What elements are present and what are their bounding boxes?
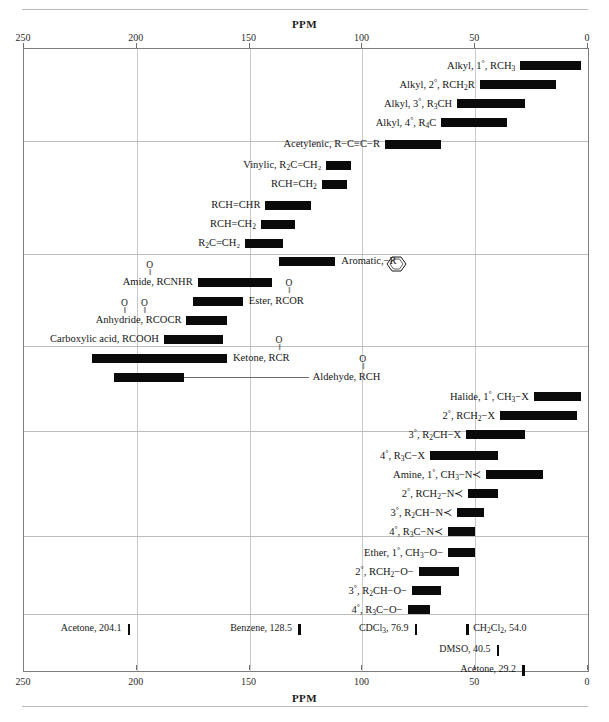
- bar-ketone: [92, 354, 227, 363]
- ppm-title-bottom: PPM: [0, 692, 609, 704]
- section-divider-2: [24, 254, 588, 255]
- section-divider-3: [24, 346, 588, 347]
- row-label-7: RCH=CHR: [211, 199, 260, 210]
- row-label-6: RCH=CH2: [271, 178, 317, 191]
- right-row-label-3: 4°, R3C−X: [380, 449, 425, 463]
- bar-right-row-3: [430, 451, 498, 460]
- bar-row-7: [265, 201, 310, 210]
- axis-tick-label-250: 250: [16, 676, 31, 687]
- bar-right-row-0: [534, 392, 581, 401]
- bar-right-row-7: [448, 527, 475, 536]
- bar-right-row-6: [457, 508, 484, 517]
- gridline-50: [475, 49, 476, 671]
- bar-right-row-10: [412, 586, 441, 595]
- bar-row-4: [385, 140, 441, 149]
- bar-aldehyde: [114, 373, 184, 382]
- right-row-label-9: 2°, RCH2−O−: [355, 565, 413, 579]
- aldehyde-leader-line: [184, 377, 309, 378]
- solvent-marker-2: [415, 624, 418, 635]
- solvent-label-4: DMSO, 40.5: [439, 643, 490, 654]
- right-row-label-5: 2°, RCH2−N≺: [402, 487, 464, 501]
- carbonyl-group-icon: O‖: [359, 356, 366, 370]
- right-row-label-4: Amine, 1°, CH3−N≺: [393, 468, 481, 482]
- bar-row-1: [480, 80, 557, 89]
- bar-row-10: [198, 278, 272, 287]
- carbonyl-group-icon: O‖: [141, 300, 148, 314]
- row-label-aldehyde: Aldehyde, RCH: [313, 371, 381, 382]
- solvent-marker-5: [522, 665, 525, 676]
- axis-tick-label-150: 150: [241, 676, 256, 687]
- solvent-marker-0: [128, 624, 131, 635]
- right-row-label-11: 4°, R3C−O−: [352, 603, 403, 617]
- bar-right-row-9: [419, 567, 460, 576]
- bottom-rule: [22, 706, 588, 707]
- row-label-0: Alkyl, 1°, RCH3: [447, 59, 515, 73]
- bar-right-row-5: [468, 489, 497, 498]
- solvent-marker-3: [466, 624, 469, 635]
- right-row-label-10: 3°, R2CH−O−: [349, 584, 407, 598]
- bar-right-row-4: [486, 470, 542, 479]
- plot-area: Alkyl, 1°, RCH3Alkyl, 2°, RCH2RAlkyl, 3°…: [23, 48, 589, 672]
- top-rule: [22, 9, 588, 10]
- solvent-label-2: CDCl3, 76.9: [359, 622, 409, 635]
- bar-right-row-1: [500, 411, 577, 420]
- carbonyl-group-icon: O‖: [276, 337, 283, 351]
- axis-tick-label-250: 250: [16, 32, 31, 43]
- section-divider-5: [24, 536, 588, 537]
- bar-ester: [193, 297, 243, 306]
- bar-row-0: [520, 61, 581, 70]
- bar-aromatic: [279, 257, 335, 266]
- row-label-12: Carboxylic acid, RCOOH: [50, 333, 159, 344]
- right-row-label-1: 2°, RCH2−X: [442, 409, 495, 423]
- right-row-label-6: 3°, R2CH−N≺: [391, 506, 453, 520]
- axis-tick-label-50: 50: [469, 676, 479, 687]
- row-label-2: Alkyl, 3°, R3CH: [384, 97, 452, 111]
- row-label-ketone: Ketone, RCR: [233, 352, 290, 363]
- row-label-4: Acetylenic, R−C≡C−R: [283, 138, 380, 149]
- carbonyl-group-icon: O‖: [121, 300, 128, 314]
- row-label-9: R2C=CH₂: [198, 237, 240, 250]
- axis-tick-label-100: 100: [354, 676, 369, 687]
- right-row-label-2: 3°, R2CH−X: [409, 428, 462, 442]
- axis-tick-label-0: 0: [585, 32, 590, 43]
- solvent-label-1: Benzene, 128.5: [230, 622, 292, 633]
- row-label-11: Anhydride, RCOCR: [96, 314, 182, 325]
- bar-row-3: [441, 118, 506, 127]
- row-label-ester: Ester, RCOR: [249, 295, 304, 306]
- right-row-label-8: Ether, 1°, CH3−O−: [364, 546, 443, 560]
- right-row-label-0: Halide, 1°, CH3−X: [450, 390, 529, 404]
- carbonyl-group-icon: O‖: [285, 280, 292, 294]
- section-divider-6: [24, 614, 588, 615]
- axis-tick-label-200: 200: [128, 676, 143, 687]
- axis-tick-label-0: 0: [585, 676, 590, 687]
- row-label-3: Alkyl, 4°, R4C: [376, 116, 437, 130]
- bar-row-2: [457, 99, 525, 108]
- solvent-marker-1: [298, 624, 301, 635]
- solvent-marker-4: [497, 645, 500, 656]
- nmr-chemical-shift-chart: PPM PPM 250200150100500 250200150100500 …: [0, 0, 609, 722]
- bar-row-8: [261, 220, 295, 229]
- bar-row-6: [322, 180, 347, 189]
- bar-right-row-8: [448, 548, 475, 557]
- bar-row-5: [326, 161, 351, 170]
- row-label-8: RCH=CH2: [210, 218, 256, 231]
- benzene-ring-icon: [384, 255, 414, 273]
- row-label-1: Alkyl, 2°, RCH2R: [399, 78, 474, 92]
- bar-row-9: [245, 239, 283, 248]
- ppm-title-top: PPM: [0, 18, 609, 30]
- bar-right-row-2: [466, 430, 525, 439]
- axis-tick-label-150: 150: [241, 32, 256, 43]
- bar-right-row-11: [408, 605, 431, 614]
- bar-row-12: [164, 335, 223, 344]
- row-label-5: Vinylic, R2C=CH₂: [243, 159, 321, 172]
- axis-tick-label-200: 200: [128, 32, 143, 43]
- solvent-label-3: CH2Cl2, 54.0: [473, 622, 526, 635]
- solvent-label-5: Acetone, 29.2: [460, 663, 516, 674]
- row-label-10: Amide, RCNHR: [123, 276, 193, 287]
- bar-row-11: [186, 316, 227, 325]
- solvent-label-0: Acetone, 204.1: [61, 622, 122, 633]
- axis-tick-label-50: 50: [469, 32, 479, 43]
- row-label-aromatic: Aromatic,−R: [341, 255, 396, 266]
- axis-tick-label-100: 100: [354, 32, 369, 43]
- right-row-label-7: 4°, R3C−N≺: [389, 525, 443, 539]
